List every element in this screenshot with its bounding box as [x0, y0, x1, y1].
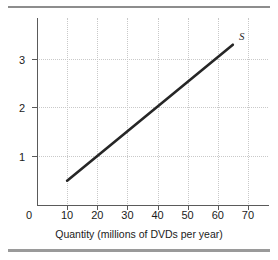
series-label-supply: S — [239, 30, 245, 42]
x-axis-tick-label: 50 — [181, 210, 193, 221]
bottom-divider-rule — [8, 249, 270, 252]
x-axis-tick-label: 70 — [242, 210, 254, 221]
supply-curve-line — [37, 18, 269, 206]
x-axis-tick-label: 40 — [151, 210, 163, 221]
top-divider-rule — [8, 6, 270, 8]
x-axis-tick-label: 20 — [91, 210, 103, 221]
y-axis-tick-label: 3 — [19, 54, 25, 65]
x-axis-tick-label: 30 — [121, 210, 133, 221]
y-axis-tick-label: 2 — [19, 103, 25, 114]
y-axis-tick-label: 1 — [19, 152, 25, 163]
plot-area: 1 2 3 0 10 20 30 40 50 60 70 S — [37, 18, 269, 206]
supply-curve-figure: 1 2 3 0 10 20 30 40 50 60 70 S Quantity … — [0, 0, 278, 260]
origin-label: 0 — [26, 210, 32, 221]
x-axis-tick-label: 10 — [61, 210, 73, 221]
x-axis-tick-label: 60 — [212, 210, 224, 221]
x-axis-title: Quantity (millions of DVDs per year) — [0, 228, 278, 240]
